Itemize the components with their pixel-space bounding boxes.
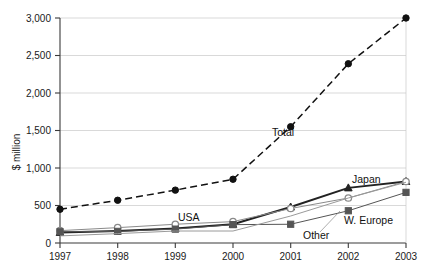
data-point — [230, 222, 236, 228]
data-point — [345, 208, 351, 214]
xtick-label-2003: 2003 — [395, 251, 418, 262]
data-point — [172, 187, 178, 193]
series-label-other: Other — [303, 229, 330, 241]
data-point — [403, 15, 409, 21]
ytick-label-1000: 1,000 — [26, 163, 51, 174]
xtick-label-1999: 1999 — [164, 251, 187, 262]
y-tick-labels: 3,000 2,500 2,000 1,500 1,000 500 0 — [26, 13, 51, 249]
data-point — [230, 176, 236, 182]
xtick-label-2001: 2001 — [280, 251, 303, 262]
series-layer — [56, 15, 410, 236]
ytick-label-2500: 2,500 — [26, 50, 51, 61]
data-point — [114, 197, 120, 203]
data-point — [287, 205, 293, 211]
y-axis-title: $ million — [11, 134, 22, 171]
line-chart: 3,000 2,500 2,000 1,500 1,000 500 0 1997… — [0, 0, 421, 279]
ytick-label-2000: 2,000 — [26, 88, 51, 99]
data-point — [57, 206, 63, 212]
xtick-label-2000: 2000 — [222, 251, 245, 262]
ytick-label-1500: 1,500 — [26, 125, 51, 136]
other-leader-line — [320, 211, 340, 232]
x-tick-labels: 1997 1998 1999 2000 2001 2002 2003 — [49, 251, 418, 262]
data-point — [403, 178, 409, 184]
data-point — [403, 189, 409, 195]
ytick-label-500: 500 — [34, 200, 51, 211]
series-label-usa: USA — [178, 211, 200, 223]
series-label-w-europe: W. Europe — [344, 214, 393, 226]
series-label-japan: Japan — [352, 173, 381, 185]
series-label-total: Total — [272, 126, 294, 138]
data-point — [57, 229, 63, 235]
chart-svg: 3,000 2,500 2,000 1,500 1,000 500 0 1997… — [0, 0, 421, 279]
data-point — [345, 61, 351, 67]
xtick-label-2002: 2002 — [337, 251, 360, 262]
xtick-label-1998: 1998 — [107, 251, 130, 262]
ytick-label-0: 0 — [45, 238, 51, 249]
data-point — [288, 221, 294, 227]
series-annotations: Total Japan USA W. Europe Other — [178, 126, 393, 241]
xtick-label-1997: 1997 — [49, 251, 72, 262]
ytick-label-3000: 3,000 — [26, 13, 51, 24]
